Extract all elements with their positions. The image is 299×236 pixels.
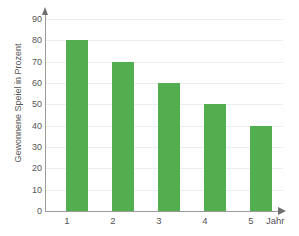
plot-area	[46, 19, 283, 211]
gridline-90	[46, 19, 283, 20]
y-tick-label-10: 10	[22, 186, 42, 195]
arrow-right-icon	[278, 207, 286, 215]
y-tick-label-20: 20	[22, 164, 42, 173]
x-tick-label-3: 3	[148, 215, 170, 227]
x-tick-label-4: 4	[194, 215, 216, 227]
y-tick-label-60: 60	[22, 79, 42, 88]
y-tick-label-0: 0	[22, 207, 42, 216]
x-tick-label-2: 2	[102, 215, 124, 227]
y-tick-label-70: 70	[22, 58, 42, 67]
y-tick-label-30: 30	[22, 143, 42, 152]
bar-3[interactable]	[158, 83, 180, 211]
x-tick-label-1: 1	[56, 215, 78, 227]
y-tick-label-40: 40	[22, 122, 42, 131]
y-tick-label-50: 50	[22, 100, 42, 109]
bar-5[interactable]	[250, 126, 272, 211]
bar-chart-figure: Gewonnene Speiel in Prozent 90 80 70 60 …	[0, 0, 299, 236]
bar-4[interactable]	[204, 104, 226, 211]
y-axis-tick-labels: 90 80 70 60 50 40 30 20 10 0	[18, 0, 42, 236]
bar-1[interactable]	[66, 40, 88, 211]
x-axis-line	[46, 211, 279, 212]
x-axis-label: Jahr	[266, 215, 284, 227]
y-tick-label-90: 90	[22, 15, 42, 24]
bar-2[interactable]	[112, 62, 134, 211]
arrow-up-icon	[42, 7, 48, 15]
y-tick-label-80: 80	[22, 36, 42, 45]
chart-title-cropped	[0, 0, 299, 5]
x-tick-label-5: 5	[240, 215, 262, 227]
